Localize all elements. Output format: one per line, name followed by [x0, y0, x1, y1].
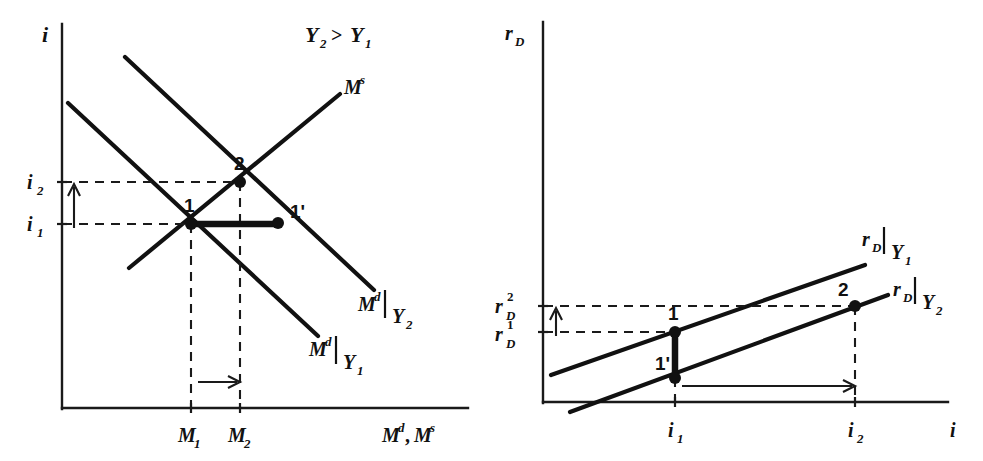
title-y1-base: Y	[350, 22, 366, 47]
xaxis-comma: ,	[405, 424, 410, 446]
right-panel: r D r D 2 r D 1 i 1 i 2	[495, 22, 956, 446]
ytick-rD1-sup: 1	[507, 317, 514, 332]
right-point-1-prime-dot	[669, 372, 681, 384]
mdy1-sup: d	[325, 334, 332, 349]
money-demand-y1-label: M d Y 1	[308, 334, 364, 378]
money-demand-y2-curve	[125, 57, 374, 290]
left-panel-title: Y 2 > Y 1	[305, 22, 372, 51]
left-point-2-label: 2	[234, 153, 245, 174]
xtick-m2-sub: 2	[243, 436, 251, 451]
left-xtick-label-m1: M 1	[177, 424, 201, 451]
left-x-axis-label: M d , M s	[381, 420, 435, 446]
figure-canvas: Y 2 > Y 1 i i 2 i 1 M 1 M	[0, 0, 983, 461]
money-demand-y2-label: M d Y 2	[357, 289, 413, 332]
left-point-1-dot	[185, 218, 197, 230]
ytick-i2-base: i	[27, 171, 33, 193]
left-y-axis-label: i	[42, 22, 49, 47]
xtick-i2-base: i	[848, 419, 854, 441]
rdy2-base: r	[893, 278, 901, 300]
rdy2-cond: Y	[922, 291, 936, 313]
ytick-rD2-sup: 2	[507, 289, 514, 304]
rdy1-sub: D	[871, 240, 882, 255]
right-yaxis-base: r	[505, 22, 513, 44]
ytick-rD1-sub: D	[505, 336, 516, 351]
mdy1-cond-sub: 1	[357, 363, 364, 378]
ytick-rD2-base: r	[495, 295, 503, 317]
right-y-axis-label: r D	[505, 22, 525, 49]
xtick-i2-sub: 2	[856, 431, 864, 446]
mdy1-cond: Y	[343, 351, 357, 373]
ytick-i1-sub: 1	[37, 225, 44, 240]
left-point-1-prime-dot	[272, 217, 284, 229]
title-y2-base: Y	[305, 22, 321, 47]
left-xtick-label-m2: M 2	[227, 424, 251, 451]
ytick-i2-sub: 2	[36, 183, 44, 198]
ms-sup: s	[359, 72, 365, 87]
ytick-rD1-base: r	[495, 323, 503, 345]
title-operator: >	[331, 24, 342, 46]
left-point-1-label: 1	[184, 195, 195, 216]
right-point-1-label: 1	[668, 303, 679, 324]
right-yaxis-sub: D	[514, 34, 525, 49]
right-xtick-label-i2: i 2	[848, 419, 864, 446]
mdy2-cond-sub: 2	[405, 317, 413, 332]
xtick-m1-sub: 1	[194, 436, 201, 451]
ytick-i1-base: i	[27, 213, 33, 235]
mdy2-cond: Y	[392, 305, 406, 327]
right-xtick-label-i1: i 1	[668, 419, 684, 446]
xtick-i1-sub: 1	[677, 431, 684, 446]
left-ytick-label-i2: i 2	[27, 171, 44, 198]
deposit-rate-y2-label: r D Y 2	[893, 277, 943, 318]
left-point-1-prime-label: 1'	[290, 201, 305, 222]
left-point-2-dot	[234, 176, 246, 188]
left-panel: Y 2 > Y 1 i i 2 i 1 M 1 M	[27, 22, 468, 451]
deposit-rate-y1-label: r D Y 1	[862, 227, 912, 268]
money-supply-label: M s	[343, 72, 365, 98]
mdy2-sup: d	[374, 289, 381, 304]
left-ytick-label-i1: i 1	[27, 213, 44, 240]
right-x-axis-label: i	[950, 419, 956, 441]
rdy1-cond-sub: 1	[905, 253, 912, 268]
economics-figure: Y 2 > Y 1 i i 2 i 1 M 1 M	[0, 0, 983, 461]
right-point-1-prime-label: 1'	[655, 353, 670, 374]
title-y1-sub: 1	[365, 36, 372, 51]
xtick-i1-base: i	[668, 419, 674, 441]
rdy1-base: r	[862, 228, 870, 250]
rdy2-sub: D	[902, 290, 913, 305]
rdy2-cond-sub: 2	[935, 303, 943, 318]
right-point-2-dot	[849, 300, 861, 312]
xaxis-ms-sup: s	[429, 420, 435, 435]
right-point-2-label: 2	[838, 279, 849, 300]
right-point-1-dot	[669, 326, 681, 338]
rdy1-cond: Y	[891, 241, 905, 263]
title-y2-sub: 2	[319, 36, 327, 51]
xaxis-md-sup: d	[398, 420, 405, 435]
